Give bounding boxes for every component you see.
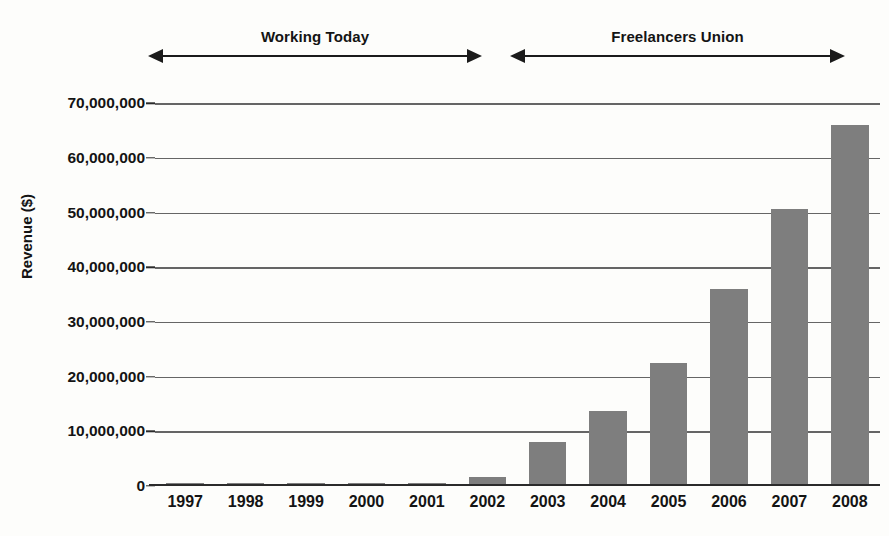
x-axis-line	[149, 484, 880, 486]
x-tick-label: 2005	[651, 493, 687, 511]
bar[interactable]	[831, 125, 868, 486]
bar[interactable]	[529, 442, 566, 486]
x-tick-label: 2001	[409, 493, 445, 511]
bar[interactable]	[589, 411, 626, 486]
x-tick-label: 1997	[167, 493, 203, 511]
y-tick-label: 60,000,000	[25, 149, 145, 167]
y-tick-mark	[146, 431, 155, 432]
annotation-label-working-today: Working Today	[148, 28, 482, 45]
x-tick-label: 1999	[288, 493, 324, 511]
y-tick-label: 50,000,000	[25, 204, 145, 222]
y-tick-mark	[146, 157, 155, 158]
y-tick-label: 70,000,000	[25, 94, 145, 112]
y-tick-mark	[146, 103, 155, 104]
y-tick-mark	[146, 321, 155, 322]
arrow-head-right-icon	[830, 49, 845, 63]
x-tick-label: 1998	[228, 493, 264, 511]
annotation-arrow-working-today	[148, 48, 482, 64]
x-tick-label: 2002	[469, 493, 505, 511]
y-axis-title: Revenue ($)	[18, 177, 35, 297]
y-tick-label: 40,000,000	[25, 258, 145, 276]
y-tick-label: 20,000,000	[25, 368, 145, 386]
arrow-shaft	[518, 55, 837, 57]
x-tick-label: 2004	[590, 493, 626, 511]
annotation-arrow-freelancers-union	[510, 48, 845, 64]
arrow-head-right-icon	[467, 49, 482, 63]
bar[interactable]	[650, 363, 687, 486]
bar[interactable]	[710, 289, 747, 486]
y-tick-label: 30,000,000	[25, 313, 145, 331]
annotation-label-freelancers-union: Freelancers Union	[510, 28, 845, 45]
y-tick-mark	[146, 376, 155, 377]
chart-figure: Working Today Freelancers Union Revenue …	[0, 0, 889, 536]
y-tick-label: 10,000,000	[25, 422, 145, 440]
y-tick-mark	[146, 267, 155, 268]
x-tick-label: 2003	[530, 493, 566, 511]
x-tick-label: 2006	[711, 493, 747, 511]
y-tick-label: 0	[25, 477, 145, 495]
x-tick-label: 2008	[832, 493, 868, 511]
arrow-shaft	[156, 55, 474, 57]
y-tick-mark	[146, 212, 155, 213]
x-tick-label: 2007	[772, 493, 808, 511]
x-tick-label: 2000	[349, 493, 385, 511]
plot-area	[155, 76, 880, 486]
bar-series	[155, 76, 880, 486]
bar[interactable]	[771, 209, 808, 486]
